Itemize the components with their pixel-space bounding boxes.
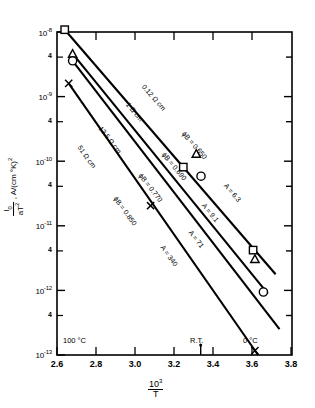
y-axis-fraction: I0 aT2: [3, 202, 25, 217]
x-tick-label-3.0: 3.0: [120, 359, 150, 369]
y-axis-ticks-right: [284, 57, 292, 315]
x-axis-ticks-top: [96, 32, 252, 40]
x-tick-label-2.6: 2.6: [42, 359, 72, 369]
y-axis-denominator: aT2: [14, 202, 25, 217]
series-line-13.5-ohm-cm: [73, 61, 280, 329]
y-tick-label-4e: 4: [10, 311, 52, 318]
y-tick-label-4d: 4: [10, 246, 52, 253]
annotation-100c: 100 °C: [63, 336, 86, 345]
series-line-51-ohm-cm: [69, 83, 258, 355]
y-tick-label-1e-9: 10-9: [10, 91, 52, 102]
y-tick-label-4a: 4: [10, 52, 52, 59]
x-tick-label-3.2: 3.2: [159, 359, 189, 369]
y-axis-numerator: I0: [3, 202, 14, 217]
y-tick-label-4b: 4: [10, 117, 52, 124]
x-tick-label-2.8: 2.8: [81, 359, 111, 369]
x-axis-denominator: T: [148, 390, 163, 399]
x-tick-label-3.8: 3.8: [276, 359, 306, 369]
y-axis-minor-ticks-left: [57, 57, 63, 315]
x-axis-fraction: 103 T: [148, 378, 163, 400]
y-axis-units: , A/(cm °K)2: [9, 158, 18, 200]
x-tick-label-3.6: 3.6: [237, 359, 267, 369]
x-axis-label: 103 T: [148, 378, 163, 400]
annotation-0c: 0 °C: [243, 336, 258, 345]
y-tick-label-1e-8: 10-8: [10, 27, 52, 38]
y-axis-label: I0 aT2 , A/(cm °K)2: [3, 127, 25, 247]
arrhenius-plot-figure: [0, 0, 315, 408]
rt-marker-tick: [199, 344, 202, 356]
annotation-rt: R.T.: [190, 336, 203, 345]
y-tick-label-1e-12: 10-12: [6, 285, 52, 296]
x-tick-label-3.4: 3.4: [198, 359, 228, 369]
series-line-0.12-ohm-cm: [65, 30, 276, 274]
y-axis-ticks-left: [57, 32, 65, 355]
